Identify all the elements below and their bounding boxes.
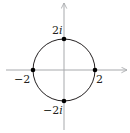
label-neg-2: −2 bbox=[14, 74, 30, 85]
label-2i-number: 2 bbox=[52, 24, 59, 37]
point-neg-2 bbox=[31, 68, 36, 73]
label-2: 2 bbox=[96, 74, 103, 85]
label-neg-2i-imaginary-unit: i bbox=[59, 104, 63, 117]
label-neg-2i-number: −2 bbox=[43, 104, 59, 117]
label-neg-2-text: −2 bbox=[14, 73, 30, 86]
label-neg-2i: −2i bbox=[43, 105, 63, 116]
label-2i: 2i bbox=[52, 25, 63, 36]
point-2i bbox=[62, 37, 67, 42]
point-neg-2i bbox=[62, 99, 67, 104]
diagram-svg bbox=[0, 0, 130, 133]
label-2i-imaginary-unit: i bbox=[59, 24, 63, 37]
label-2-text: 2 bbox=[96, 73, 103, 86]
complex-plane-diagram: 2i −2 2 −2i bbox=[0, 0, 130, 133]
point-2 bbox=[93, 68, 98, 73]
